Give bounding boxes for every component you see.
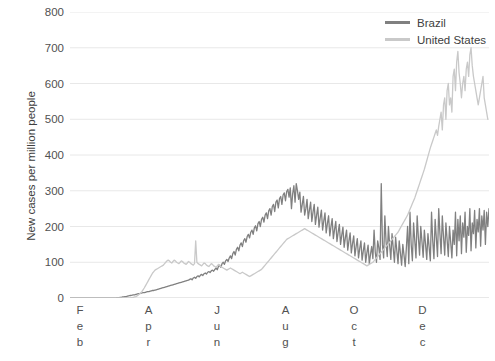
- x-axis-tick: Apr: [136, 302, 162, 350]
- y-axis-tick-labels: 0100200300400500600700800: [28, 0, 64, 361]
- legend-label: United States: [417, 34, 486, 46]
- y-axis-tick: 100: [28, 256, 64, 268]
- x-axis-tick-letter: O: [341, 302, 367, 318]
- x-axis-tick: Feb: [67, 302, 93, 350]
- y-axis-tick: 800: [28, 6, 64, 18]
- line-chart: New cases per million people 01002003004…: [0, 0, 495, 361]
- legend-item[interactable]: Brazil: [385, 14, 486, 31]
- x-axis-tick: Aug: [273, 302, 299, 350]
- x-axis-tick-letter: J: [204, 302, 230, 318]
- x-axis-tick-letter: F: [67, 302, 93, 318]
- series-line-united-states: [70, 48, 488, 298]
- y-axis-tick: 500: [28, 113, 64, 125]
- x-axis-tick-letter: A: [136, 302, 162, 318]
- x-axis-tick-letter: c: [410, 334, 436, 350]
- y-axis-tick: 300: [28, 185, 64, 197]
- y-axis-tick: 400: [28, 149, 64, 161]
- series-line-brazil: [70, 184, 489, 298]
- x-axis-tick-letter: n: [204, 334, 230, 350]
- plot-svg: [70, 12, 489, 298]
- x-axis-tick-letter: b: [67, 334, 93, 350]
- x-axis-tick-labels: FebAprJunAugOctDec: [70, 302, 489, 360]
- x-axis-tick-letter: g: [273, 334, 299, 350]
- x-axis-tick: Jun: [204, 302, 230, 350]
- x-axis-tick-letter: c: [341, 318, 367, 334]
- legend-color-swatch: [385, 38, 410, 41]
- y-axis-tick: 0: [28, 292, 64, 304]
- x-axis-tick: Dec: [410, 302, 436, 350]
- data-series-group: [70, 48, 489, 298]
- x-axis-tick-letter: A: [273, 302, 299, 318]
- x-axis-tick-letter: e: [410, 318, 436, 334]
- x-axis-tick-letter: t: [341, 334, 367, 350]
- y-axis-tick: 700: [28, 42, 64, 54]
- legend-label: Brazil: [417, 17, 446, 29]
- x-axis-tick-letter: u: [204, 318, 230, 334]
- x-axis-tick-letter: r: [136, 334, 162, 350]
- plot-area: [70, 12, 489, 298]
- y-axis-tick: 600: [28, 78, 64, 90]
- legend-item[interactable]: United States: [385, 31, 486, 48]
- x-axis-tick: Oct: [341, 302, 367, 350]
- y-axis-tick: 200: [28, 221, 64, 233]
- chart-legend: BrazilUnited States: [385, 14, 486, 48]
- x-axis-tick-letter: D: [410, 302, 436, 318]
- x-axis-tick-letter: u: [273, 318, 299, 334]
- x-axis-tick-letter: p: [136, 318, 162, 334]
- legend-color-swatch: [385, 21, 410, 24]
- x-axis-tick-letter: e: [67, 318, 93, 334]
